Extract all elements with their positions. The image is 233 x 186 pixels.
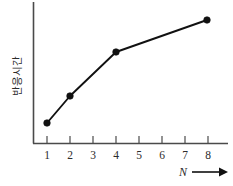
data-point-marker — [204, 17, 211, 24]
data-point-marker — [44, 120, 51, 127]
x-axis-arrow-icon — [192, 168, 228, 177]
chart-container: 1 2 3 4 5 6 7 8 반응시간 N — [0, 0, 233, 186]
x-tick-label-6: 6 — [159, 149, 165, 161]
data-point-marker — [113, 49, 120, 56]
x-tick-label-8: 8 — [205, 149, 211, 161]
x-axis-tick-labels: 1 2 3 4 5 6 7 8 — [44, 149, 211, 161]
y-axis-label: 반응시간 — [11, 56, 23, 96]
x-tick-label-1: 1 — [44, 149, 50, 161]
x-tick-label-5: 5 — [136, 149, 142, 161]
x-axis-label: N — [178, 165, 188, 179]
x-tick-label-2: 2 — [67, 149, 73, 161]
x-tick-label-7: 7 — [182, 149, 188, 161]
data-series-markers — [44, 17, 211, 127]
line-chart-plot: 1 2 3 4 5 6 7 8 반응시간 N — [0, 0, 233, 186]
data-series-line — [47, 20, 207, 123]
x-axis-tick-marks — [47, 136, 208, 143]
x-tick-label-4: 4 — [113, 149, 119, 161]
x-tick-label-3: 3 — [90, 149, 96, 161]
data-point-marker — [67, 93, 74, 100]
